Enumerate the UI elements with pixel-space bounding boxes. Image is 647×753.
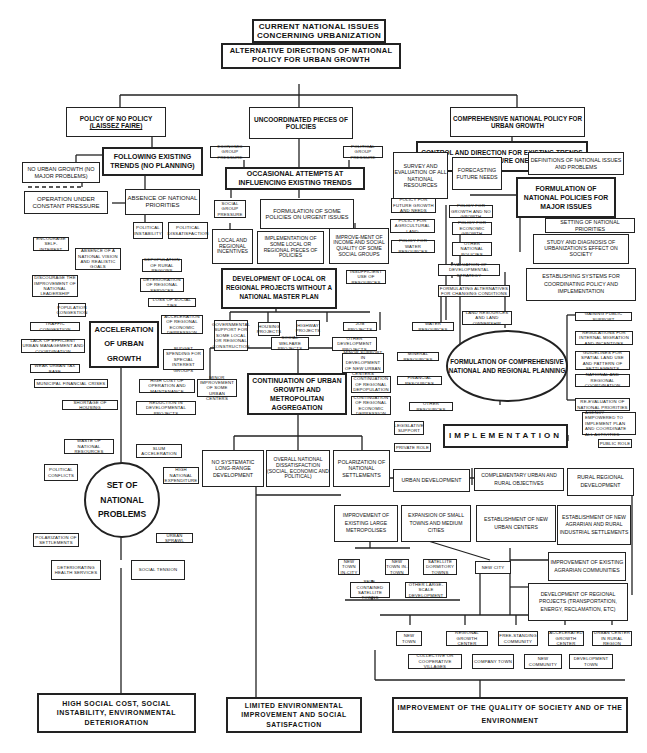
polarization-settlements-box: POLARIZATION OF NATIONAL SETTLEMENTS [333, 450, 390, 487]
urban-center-rural-box: URBAN CENTER IN RURAL REGION [592, 631, 632, 646]
new-city-box: NEW CITY [475, 561, 511, 574]
land-resources-box: LAND RESOURCES AND LAND OWNERSHIP [462, 311, 512, 325]
no-policy-label: POLICY OF NO POLICY [80, 115, 152, 122]
new-community-box: NEW COMMUNITY [524, 654, 562, 669]
comprehensive-box: COMPREHENSIVE NATIONAL POLICY FOR URBAN … [450, 107, 585, 137]
regulations-migration-box: REGULATIONS FOR INTERNAL MIGRATION AND I… [575, 331, 633, 345]
overall-dissatisfaction-box: OVERALL NATIONAL DISSATISFACTION (SOCIAL… [266, 450, 330, 487]
shortage-housing-box: SHORTAGE OF HOUSING [62, 400, 118, 410]
loss-social-ties-box: LOSS OF SOCIAL TIES [148, 298, 196, 307]
deterioration-services-box: DETERIORATION OF REGIONAL SERVICES [140, 278, 184, 292]
agency-empowered-box: AGENCY EMPOWERED TO IMPLEMENT PLAN AND C… [582, 412, 636, 435]
policy-no-growth-box: POLICY FOR GROWTH AND NO GROWTH [449, 205, 493, 218]
encourage-self-interest-box: ENCOURAGE SELF-INTEREST [33, 237, 69, 251]
national-regional-coord-box: NATIONAL AND REGIONAL COORDINATION [575, 374, 630, 387]
urban-development-box: URBAN DEVELOPMENT [393, 469, 470, 492]
social-pressure-box: SOCIAL GROUP PRESSURE [214, 200, 246, 218]
new-town-in-city-box: NEW TOWN IN-CITY [338, 559, 360, 575]
improvement-metropolises-box: IMPROVEMENT OF EXISTING LARGE METROPOLIS… [334, 505, 398, 542]
company-town-box: COMPANY TOWN [472, 654, 514, 669]
development-local-box: DEVELOPMENT OF LOCAL OR REGIONAL PROJECT… [221, 268, 337, 309]
policy-economic-box: POLICY FOR ECONOMIC GROWTH [452, 222, 492, 235]
political-conflicts-box: POLITICAL CONFLICTS [44, 464, 78, 481]
financial-resources-box: FINANCIAL RESOURCES [397, 376, 442, 385]
constant-pressure-box: OPERATION UNDER CONSTANT PRESSURE [24, 191, 108, 214]
occasional-attempts-box: OCCASIONAL ATTEMPTS AT INFLUENCING EXIST… [225, 167, 365, 190]
housing-projects-box: HOUSING PROJECTS [258, 322, 280, 336]
alternatives-box: ALTERNATIVE DIRECTIONS OF NATIONAL POLIC… [221, 43, 401, 69]
continuation-depression-box: CONTINUATION OF REGIONAL ECONOMIC DEPRES… [351, 396, 391, 415]
survey-resources-box: SURVEY AND EVALUATION OF ALL NATIONAL RE… [393, 152, 448, 199]
laissez-faire-label: (LAISSEZ FAIRE) [90, 122, 143, 129]
expansion-small-box: EXPANSION OF SMALL TOWNS AND MEDIUM CITI… [401, 505, 471, 542]
establishing-systems-box: ESTABLISHING SYSTEMS FOR COORDINATING PO… [526, 268, 636, 301]
definitions-issues-box: DEFINITIONS OF NATIONAL ISSUES AND PROBL… [528, 152, 624, 175]
absence-vision-box: ABSENCE OF A NATIONAL VISION AND REALIST… [75, 248, 121, 270]
policy-agricultural-box: POLICY FOR AGRICULTURAL LAND [390, 219, 435, 233]
other-large-scale-box: OTHER LARGE-SCALE DEVELOPMENT [405, 582, 447, 598]
satellite-dormitory-box: SATELLITE DORMITORY TOWNS [423, 559, 457, 575]
policy-future-growth-box: POLICY FOR FUTURE GROWTH AND NEEDS [391, 198, 436, 213]
self-contained-box: SELF-CONTAINED SATELLITE TOWNS [350, 582, 390, 598]
forecasting-box: FORECASTING FUTURE NEEDS [452, 157, 502, 190]
local-incentives-box: LOCAL AND REGIONAL INCENTIVES [212, 229, 253, 264]
development-town-box: DEVELOPMENT TOWN [569, 654, 613, 669]
regional-growth-center-box: REGIONAL GROWTH CENTER [446, 631, 488, 646]
absence-priorities-box: ABSENCE OF NATIONAL PRIORITIES [125, 189, 200, 215]
formulation-national-box: FORMULATION OF NATIONAL POLICIES FOR MAJ… [516, 177, 616, 218]
implementation-some-box: IMPLEMENTATION OF SOME LOCAL OR REGIONAL… [257, 231, 324, 264]
waste-resources-box: WASTE OF NATIONAL RESOURCES [64, 439, 114, 454]
budget-spending-box: BUDGET SPENDING FOR SPECIAL INTEREST GRO… [163, 349, 204, 370]
continuation-depop-box: CONTINUATION OF REGIONAL DEPOPULATION [351, 376, 391, 393]
political-instability-box: POLITICAL INSTABILITY [133, 222, 163, 239]
formulation-comprehensive-ellipse: FORMULATION OF COMPREHENSIVE NATIONAL AN… [446, 330, 568, 402]
evaluation-strategy-box: EVALUATION OF DEVELOPMENTAL STRATEGY [438, 264, 500, 276]
gaining-support-box: GAINING PUBLIC SUPPORT [575, 312, 632, 321]
accelerated-growth-box: ACCELERATED GROWTH CENTER [548, 631, 584, 646]
economic-pressure-box: ECONOMIC GROUP PRESSURE [210, 146, 250, 158]
development-regional-box: DEVELOPMENT OF REGIONAL PROJECTS (TRANSP… [528, 583, 628, 621]
deteriorating-health-box: DETERIORATING HEALTH SERVICES [51, 560, 101, 580]
formulation-some-box: FORMULATION OF SOME POLICIES ON URGENT I… [260, 199, 354, 229]
gov-support-box: GOVERNMENTAL SUPPORT FOR SOME LOCAL OR R… [214, 320, 248, 351]
other-national-policies-box: OTHER NATIONAL POLICIES [452, 242, 492, 256]
complementary-box: COMPLEMENTARY URBAN AND RURAL OBJECTIVES [474, 468, 564, 491]
public-role-box: PUBLIC ROLE [598, 439, 632, 448]
lack-management-box: LACK OF EFFICIENT URBAN MANAGEMENT AND C… [21, 339, 85, 353]
social-welfare-box: SOCIAL WELFARE PROJECTS [271, 337, 309, 350]
re-evaluation-box: RE-EVALUATION OF NATIONAL PRIORITIES [575, 398, 630, 411]
population-congestion-box: POPULATION CONGESTION [58, 303, 86, 317]
improvement-agrarian-box: IMPROVEMENT OF EXISTING AGRARIAN COMMUNI… [548, 552, 626, 581]
root-issues-box: CURRENT NATIONAL ISSUES CONCERNING URBAN… [252, 19, 386, 43]
reduction-projects-box: REDUCTION IN DEVELOPMENTAL PROJECTS [136, 401, 196, 415]
high-social-cost-box: HIGH SOCIAL COST, SOCIAL INSTABILITY, EN… [37, 693, 196, 733]
continuation-box: CONTINUATION OF URBAN GROWTH AND METROPO… [247, 373, 347, 415]
new-town-in-town-box: NEW TOWN IN-TOWN [385, 559, 409, 575]
policy-water-box: POLICY FOR WATER RESOURCES [391, 240, 435, 253]
water-resources-box: WATER RESOURCES [412, 322, 454, 331]
guidelines-land-box: GUIDELINES FOR SPATIAL LAND USE AND PATT… [575, 351, 630, 370]
urban-sprawl-box: URBAN SPRAWL [156, 533, 193, 543]
acceleration-depression-box: ACCELERATION OF REGIONAL ECONOMIC DEPRES… [161, 315, 203, 334]
other-resources-box: OTHER RESOURCES [409, 402, 453, 411]
traffic-congestion-box: TRAFFIC CONGESTION [30, 322, 80, 331]
setting-priorities-box: SETTING OF NATIONAL PRIORITIES [545, 218, 635, 233]
following-trends-box: FOLLOWING EXISTING TRENDS (NO PLANNING) [102, 147, 203, 176]
new-town-box: NEW TOWN [396, 631, 422, 646]
polarization-settlements-small-box: POLARIZATION OF SETTLEMENTS [33, 533, 79, 547]
formulating-alternatives-box: FORMULATING ALTERNATIVES FOR CHANGING CO… [438, 285, 510, 297]
discourage-leadership-box: DISCOURAGE THE IMPROVEMENT OF NATIONAL L… [32, 275, 78, 297]
mineral-resources-box: MINERAL RESOURCES [397, 352, 439, 361]
weak-tax-base-box: WEAK URBAN TAX BASE [30, 364, 80, 373]
uncoordinated-box: UNCOORDINATED PIECES OF POLICIES [249, 107, 353, 139]
slum-acceleration-box: SLUM ACCELERATION [136, 444, 182, 458]
legislative-support-box: LEGISLATIVE SUPPORT [394, 421, 424, 435]
no-systematic-box: NO SYSTEMATIC LONG-RANGE DEVELOPMENT [202, 450, 264, 487]
set-of-problems-circle: SET OF NATIONAL PROBLEMS [84, 462, 160, 538]
depopulation-rural-box: DEPOPULATION OF RURAL REGIONS [142, 259, 182, 272]
improvement-quality-box: IMPROVEMENT OF THE QUALITY OF SOCIETY AN… [392, 697, 628, 733]
political-dissatisfaction-box: POLITICAL DISSATISFACTION [168, 222, 208, 239]
minor-improvement-box: MINOR IMPROVEMENT OF SOME URBAN CENTERS [197, 379, 237, 397]
social-tension-box: SOCIAL TENSION [131, 560, 185, 580]
highway-projects-box: HIGHWAY PROJECTS [296, 320, 320, 336]
